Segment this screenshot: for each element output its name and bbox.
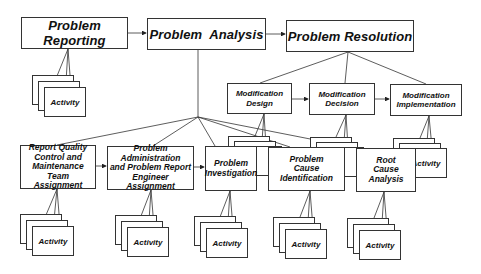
problem-investigation-box[interactable]: Problem Investigation — [205, 146, 257, 191]
box-line: Maintenance Team — [21, 162, 95, 181]
box-line: Engineer Assignment — [108, 173, 193, 192]
root-cause-analysis-box[interactable]: Root Cause Analysis — [356, 148, 416, 192]
activity-label: Activity — [39, 237, 68, 246]
problem-administration-box[interactable]: Problem Administration and Problem Repor… — [107, 146, 194, 190]
activity-label: Activity — [134, 238, 163, 247]
modification-design-box[interactable]: Modification Design — [227, 83, 292, 114]
activity-label: Activity — [213, 239, 242, 248]
activity-label: Activity — [51, 98, 80, 107]
box-line: Modification — [402, 91, 449, 101]
activity-label: Activity — [366, 241, 395, 250]
activity-box[interactable]: Activity — [359, 230, 401, 260]
problem-analysis-box[interactable]: Problem Analysis — [147, 18, 266, 50]
box-line: Design — [246, 99, 273, 109]
box-line: Implementation — [396, 100, 455, 110]
activity-box[interactable]: Activity — [285, 229, 327, 259]
activity-box[interactable]: Activity — [32, 226, 74, 256]
activity-box[interactable]: Activity — [206, 228, 248, 258]
activity-box[interactable]: Activity — [44, 87, 86, 117]
box-line: Modification — [318, 90, 365, 100]
report-quality-control-box[interactable]: Report Quality Control and Maintenance T… — [20, 145, 96, 189]
box-line: Modification — [236, 89, 283, 99]
problem-resolution-box[interactable]: Problem Resolution — [286, 20, 414, 52]
box-line: Identification — [280, 174, 333, 184]
problem-resolution-label: Problem Resolution — [288, 29, 413, 44]
problem-reporting-label: Problem Reporting — [22, 18, 127, 48]
activity-box[interactable]: Activity — [127, 227, 169, 257]
activity-label: Activity — [292, 240, 321, 249]
box-line: Decision — [325, 99, 358, 109]
box-line: Investigation — [205, 169, 257, 179]
modification-implementation-box[interactable]: Modification Implementation — [390, 84, 462, 116]
problem-analysis-label: Problem Analysis — [150, 27, 264, 42]
problem-cause-identification-box[interactable]: Problem Cause Identification — [268, 147, 345, 191]
box-line: Assignment — [34, 181, 83, 191]
modification-decision-box[interactable]: Modification Decision — [309, 83, 375, 115]
box-line: Analysis — [369, 175, 404, 185]
problem-reporting-box[interactable]: Problem Reporting — [21, 17, 128, 49]
